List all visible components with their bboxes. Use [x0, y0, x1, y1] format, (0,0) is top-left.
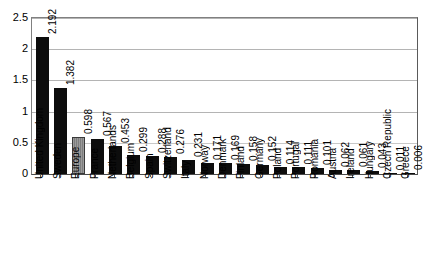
- category-label: Finland: [236, 146, 246, 179]
- category-label: Greece: [401, 146, 411, 179]
- y-tick-label: 0: [4, 168, 28, 179]
- category-label: Czech Republic: [383, 109, 393, 179]
- category-label: Romania: [310, 139, 320, 179]
- y-tick-label: 2: [4, 43, 28, 54]
- category-label: Europe: [71, 147, 81, 179]
- category-label: Italy: [181, 161, 191, 179]
- y-tick-label: 1: [4, 105, 28, 116]
- category-label: United Kingdom: [35, 108, 45, 179]
- y-axis: 00.511.522.5: [0, 0, 28, 259]
- category-label: Spain: [145, 153, 155, 179]
- category-label: Belgium: [126, 143, 136, 179]
- category-label: Germany: [255, 138, 265, 179]
- bar-chart: 00.511.522.5 2.1921.3820.5980.5670.4530.…: [0, 0, 423, 259]
- category-label: Denmark: [218, 138, 228, 179]
- bar-slot: 0.231: [180, 18, 198, 174]
- category-label: Norway: [200, 145, 210, 179]
- y-tick-label: 0.5: [4, 136, 28, 147]
- bar-slot: 0.288: [144, 18, 162, 174]
- category-label: Portugal: [291, 142, 301, 179]
- bar-value-label: 0.006: [414, 145, 423, 170]
- category-label: Hungary: [365, 141, 375, 179]
- y-tick-label: 1.5: [4, 74, 28, 85]
- category-label: Ireland: [346, 148, 356, 179]
- x-axis-category-labels: United KingdomSwedenEuropeFranceNetherla…: [31, 179, 418, 259]
- category-label: Netherlands: [108, 125, 118, 179]
- category-label: Poland: [273, 148, 283, 179]
- category-label: Switzerland: [163, 127, 173, 179]
- category-label: Austria: [328, 148, 338, 179]
- category-label: Sweden: [53, 143, 63, 179]
- category-label: France: [90, 148, 100, 179]
- y-tick-label: 2.5: [4, 12, 28, 23]
